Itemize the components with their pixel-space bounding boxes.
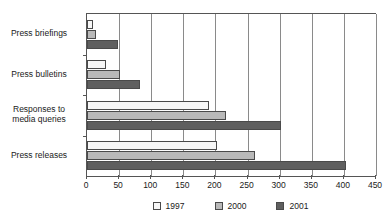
x-axis-tick <box>86 175 87 179</box>
x-axis-tick-label: 50 <box>103 180 133 190</box>
bar-2000 <box>87 70 120 79</box>
legend-swatch-icon <box>153 202 161 210</box>
x-axis-tick-label: 450 <box>360 180 390 190</box>
x-axis-tick <box>279 175 280 179</box>
bar-1997 <box>87 101 209 110</box>
x-axis-tick-label: 100 <box>135 180 165 190</box>
y-axis-tick <box>83 136 87 137</box>
bar-2001 <box>87 161 346 170</box>
bar-1997 <box>87 141 217 150</box>
x-axis-tick-label: 150 <box>167 180 197 190</box>
x-axis-tick <box>214 175 215 179</box>
category-label: Press bulletins <box>0 69 78 80</box>
bar-2000 <box>87 111 226 120</box>
gridline <box>376 14 377 176</box>
x-axis-tick-label: 300 <box>264 180 294 190</box>
x-axis-tick <box>343 175 344 179</box>
y-axis-tick <box>83 55 87 56</box>
x-axis-tick-label: 0 <box>71 180 101 190</box>
category-label: Press briefings <box>0 28 78 39</box>
x-axis-tick <box>182 175 183 179</box>
category-label: Press releases <box>0 150 78 161</box>
x-axis-tick <box>247 175 248 179</box>
category-label: Responses to media queries <box>0 104 78 125</box>
legend-item-1997[interactable]: 1997 <box>153 201 185 211</box>
bar-chart: Press briefingsPress bulletinsResponses … <box>0 0 392 222</box>
x-axis: 050100150200250300350400450 <box>86 175 375 195</box>
legend-item-2001[interactable]: 2001 <box>276 201 308 211</box>
legend-label: 2000 <box>228 201 247 211</box>
chart-legend: 199720002001 <box>86 199 375 213</box>
bar-2001 <box>87 80 140 89</box>
legend-label: 1997 <box>166 201 185 211</box>
bar-group <box>87 141 376 170</box>
legend-swatch-icon <box>276 202 284 210</box>
x-axis-tick-label: 350 <box>296 180 326 190</box>
x-axis-tick-label: 200 <box>199 180 229 190</box>
bar-group <box>87 20 376 49</box>
plot-area <box>86 13 376 177</box>
x-axis-tick-label: 400 <box>328 180 358 190</box>
x-axis-tick <box>150 175 151 179</box>
bar-2001 <box>87 121 281 130</box>
x-axis-tick-label: 250 <box>232 180 262 190</box>
bar-group <box>87 60 376 89</box>
bar-2000 <box>87 30 96 39</box>
legend-item-2000[interactable]: 2000 <box>215 201 247 211</box>
bar-2000 <box>87 151 255 160</box>
bar-1997 <box>87 20 93 29</box>
category-axis: Press briefingsPress bulletinsResponses … <box>0 13 82 175</box>
legend-label: 2001 <box>289 201 308 211</box>
bar-2001 <box>87 40 118 49</box>
bar-group <box>87 101 376 130</box>
x-axis-tick <box>311 175 312 179</box>
x-axis-tick <box>375 175 376 179</box>
x-axis-tick <box>118 175 119 179</box>
bars-layer <box>87 14 376 176</box>
y-axis-tick <box>83 95 87 96</box>
legend-swatch-icon <box>215 202 223 210</box>
bar-1997 <box>87 60 106 69</box>
